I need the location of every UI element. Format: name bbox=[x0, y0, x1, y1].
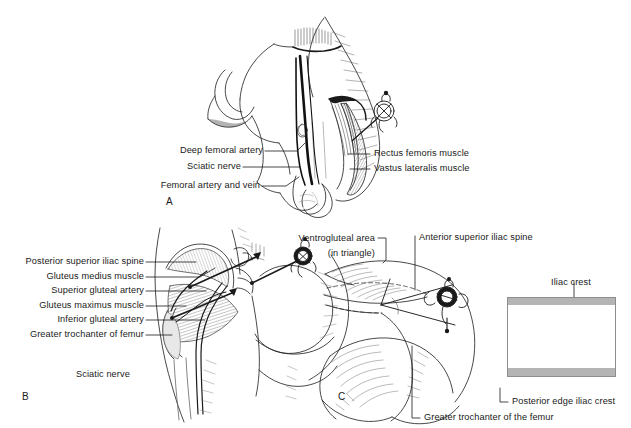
label-posterior-edge-iliac-crest: Posterior edge iliac crest bbox=[512, 396, 615, 407]
label-superior-gluteal-artery: Superior gluteal artery bbox=[4, 285, 144, 296]
label-iliac-crest: Iliac crest bbox=[551, 277, 591, 288]
panel-letter-b: B bbox=[22, 391, 29, 402]
label-gluteus-maximus-muscle: Gluteus maximus muscle bbox=[4, 300, 144, 311]
label-posterior-superior-iliac-spine: Posterior superior iliac spine bbox=[4, 256, 144, 267]
anatomy-figure: Deep femoral artery Sciatic nerve Femora… bbox=[0, 0, 631, 428]
label-anterior-superior-iliac-spine: Anterior superior iliac spine bbox=[419, 232, 533, 243]
label-greater-trochanter-of-the-femur: Greater trochanter of the femur bbox=[424, 412, 554, 423]
label-sciatic-nerve-a: Sciatic nerve bbox=[10, 161, 241, 172]
label-greater-trochanter-of-femur: Greater trochanter of femur bbox=[4, 329, 144, 340]
label-sciatic-nerve-b: Sciatic nerve bbox=[76, 369, 130, 380]
label-deep-femoral-artery: Deep femoral artery bbox=[10, 145, 263, 156]
inset-hand-placement-frame bbox=[507, 297, 616, 377]
inset-top-band bbox=[508, 298, 615, 305]
label-gluteus-medius-muscle: Gluteus medius muscle bbox=[4, 271, 144, 282]
label-vastus-lateralis-muscle: Vastus lateralis muscle bbox=[374, 163, 470, 174]
panel-letter-a: A bbox=[166, 196, 173, 207]
label-femoral-artery-and-vein: Femoral artery and vein bbox=[10, 180, 260, 191]
panel-letter-c: C bbox=[338, 391, 345, 402]
label-ventrogluteal-area-subtext: (in triangle) bbox=[230, 248, 375, 259]
label-ventrogluteal-area: Ventrogluteal area bbox=[230, 233, 375, 244]
label-inferior-gluteal-artery: Inferior gluteal artery bbox=[4, 314, 144, 325]
inset-bottom-band bbox=[508, 368, 615, 376]
label-rectus-femoris-muscle: Rectus femoris muscle bbox=[374, 148, 469, 159]
